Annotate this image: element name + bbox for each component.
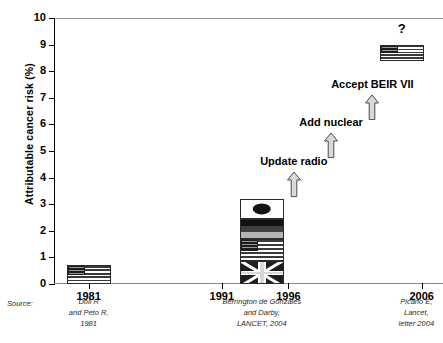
germany-flag-icon: [240, 219, 284, 239]
y-tick-label: 4: [16, 171, 46, 183]
source-note: Doll Rand Peto R,1981: [29, 297, 149, 330]
y-tick-mark: [49, 204, 55, 205]
annotation-label: Add nuclear: [299, 116, 363, 128]
y-tick-mark: [49, 284, 55, 285]
source-note: Picano E,Lancet,letter 2004: [356, 297, 443, 330]
x-tick-mark: [422, 283, 423, 289]
uk-flag-icon: [240, 261, 284, 284]
source-note-line: Berrington de Gonzales: [202, 297, 322, 308]
y-tick-mark: [49, 257, 55, 258]
y-tick-mark: [49, 231, 55, 232]
annotation-label: Accept BEIR VII: [331, 78, 414, 90]
up-arrow-icon: [324, 132, 339, 159]
y-tick-mark: [49, 178, 55, 179]
y-tick-label: 0: [16, 277, 46, 289]
us-flag-icon: [380, 45, 424, 61]
source-note-line: and Peto R,: [29, 308, 149, 319]
y-tick-label: 6: [16, 117, 46, 129]
y-tick-mark: [49, 71, 55, 72]
up-arrow-icon: [286, 171, 301, 198]
y-tick-label: 1: [16, 250, 46, 262]
us-flag-icon: [240, 239, 284, 262]
y-tick-mark: [49, 124, 55, 125]
y-tick-label: 8: [16, 64, 46, 76]
us-flag-icon: [67, 265, 111, 284]
y-tick-label: 10: [16, 11, 46, 23]
source-note-line: LANCET, 2004: [202, 319, 322, 330]
y-tick-mark: [49, 18, 55, 19]
chart-root: Attributable cancer risk (%) 01234567891…: [0, 0, 443, 343]
japan-flag-icon: [240, 199, 284, 219]
y-tick-label: 2: [16, 224, 46, 236]
y-tick-mark: [49, 45, 55, 46]
source-note-line: Lancet,: [356, 308, 443, 319]
up-arrow-icon: [365, 94, 380, 121]
source-label: Source:: [7, 299, 33, 308]
source-note-line: Picano E,: [356, 297, 443, 308]
source-note-line: letter 2004: [356, 319, 443, 330]
x-tick-mark: [288, 283, 289, 289]
source-note-line: and Darby,: [202, 308, 322, 319]
y-tick-label: 9: [16, 38, 46, 50]
y-tick-mark: [49, 151, 55, 152]
y-tick-label: 5: [16, 144, 46, 156]
question-mark-label: ?: [398, 21, 406, 36]
y-tick-mark: [49, 98, 55, 99]
source-note-line: Doll R: [29, 297, 149, 308]
y-tick-label: 7: [16, 91, 46, 103]
x-tick-mark: [222, 283, 223, 289]
source-note-line: 1981: [29, 319, 149, 330]
y-tick-label: 3: [16, 197, 46, 209]
source-note: Berrington de Gonzalesand Darby,LANCET, …: [202, 297, 322, 330]
annotation-label: Update radio: [260, 155, 327, 167]
